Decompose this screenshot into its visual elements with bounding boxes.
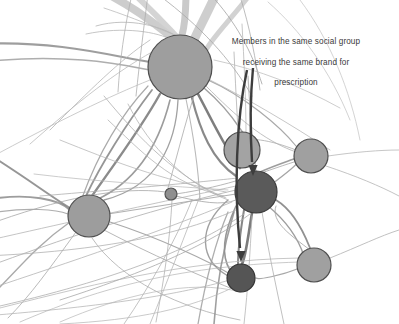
graph-edge [0,150,70,208]
graph-node[interactable] [165,188,177,200]
graph-edge [262,212,284,324]
graph-edge [0,80,150,160]
graph-edge [0,186,236,240]
graph-edge [60,287,240,322]
graph-edge [0,222,70,300]
annotation-line-2: receiving the same brand for [196,58,396,68]
graph-edge [276,200,310,248]
graph-node[interactable] [294,139,328,173]
graph-edge [20,262,300,322]
network-graph-figure: Members in the same social group receivi… [0,0,399,324]
graph-edge [0,209,68,214]
graph-node[interactable] [224,132,260,168]
graph-node[interactable] [235,171,277,213]
graph-edge [275,206,310,250]
annotation-line-3: prescription [196,78,396,88]
graph-edge [0,197,70,210]
graph-edge [92,238,240,320]
annotation-line-1: Members in the same social group [196,37,396,47]
graph-edge [256,268,300,279]
graph-edge [0,58,150,70]
graph-edge [150,196,200,324]
annotation-label: Members in the same social group receivi… [196,27,396,98]
graph-edge [40,178,238,196]
graph-edge [182,0,186,35]
graph-edge [198,212,228,324]
graph-edge [0,258,300,312]
graph-node[interactable] [227,264,255,292]
graph-edge [326,166,399,196]
graph-edge [330,230,399,258]
graph-node[interactable] [297,248,331,282]
graph-edge [328,150,399,156]
graph-node[interactable] [68,195,110,237]
